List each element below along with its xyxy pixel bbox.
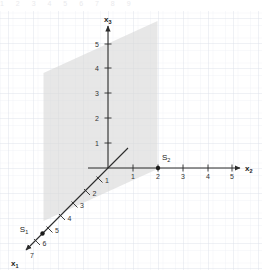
tick-label-x1-1: 1 (105, 177, 109, 184)
tick-label-x1-6: 6 (43, 240, 47, 247)
axis-label-x3-sub: 3 (108, 19, 111, 25)
tick-label-x2-3: 3 (181, 173, 185, 180)
point-s1-marker (40, 231, 44, 235)
figure-svg: 1 2 3 4 5 x3 1 2 3 4 5 x2 1 2 3 4 (0, 0, 262, 270)
axis-label-x2-sub: 2 (249, 168, 252, 174)
tick-label-x2-4: 4 (206, 173, 210, 180)
tick-label-x1-3: 3 (80, 202, 84, 209)
tick-label-x1-5: 5 (55, 227, 59, 234)
coordinate-figure: 1 2 3 4 5 x3 1 2 3 4 5 x2 1 2 3 4 (0, 0, 262, 270)
axis-label-x1-sub: 1 (15, 263, 18, 269)
tick-label-x1-4: 4 (68, 215, 72, 222)
point-s2-label-sub: 2 (167, 157, 170, 163)
point-s1-label-sub: 1 (25, 229, 28, 235)
tick-label-x3-2: 2 (95, 115, 99, 122)
tick-label-x1-7: 7 (30, 252, 34, 259)
tick-label-x2-2: 2 (156, 173, 160, 180)
tick-label-x2-1: 1 (131, 173, 135, 180)
tick-label-x3-3: 3 (95, 90, 99, 97)
tick-label-x3-4: 4 (95, 65, 99, 72)
tick-label-x3-5: 5 (95, 41, 99, 48)
point-s2-marker (156, 166, 160, 170)
tick-label-x1-2: 2 (93, 190, 97, 197)
tick-label-x2-5: 5 (230, 173, 234, 180)
tick-label-x3-1: 1 (95, 140, 99, 147)
